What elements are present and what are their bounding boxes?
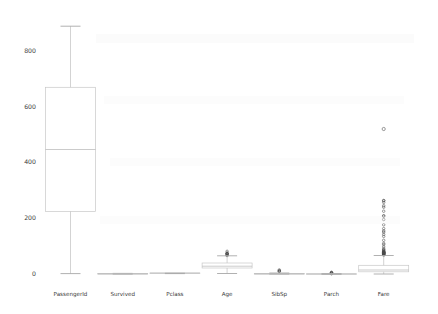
x-tick-sibsp: SibSp <box>271 291 287 298</box>
y-tick-600: 600 <box>24 103 36 110</box>
y-tick-200: 200 <box>24 214 36 221</box>
outlier-point <box>382 218 385 221</box>
box-iqr <box>359 265 409 272</box>
outlier-group <box>382 199 385 256</box>
box-pclass <box>150 273 200 274</box>
outlier-point <box>382 224 385 227</box>
y-tick-0: 0 <box>32 270 36 277</box>
boxplot-canvas: 800 600 400 200 0 <box>0 0 438 314</box>
x-tick-passengerid: PassengerId <box>54 291 88 298</box>
y-axis-tick-labels: 800 600 400 200 0 <box>24 47 36 277</box>
outlier-point-max <box>382 127 385 130</box>
box-fare <box>359 127 409 274</box>
y-tick-400: 400 <box>24 158 36 165</box>
x-tick-pclass: Pclass <box>166 291 183 297</box>
box-sibsp <box>254 269 304 274</box>
x-tick-age: Age <box>222 291 233 298</box>
box-age <box>202 250 252 273</box>
x-tick-survived: Survived <box>110 291 135 297</box>
x-axis-tick-labels: PassengerId Survived Pclass Age SibSp Pa… <box>54 291 391 298</box>
box-parch <box>307 271 357 275</box>
y-tick-800: 800 <box>24 47 36 54</box>
outlier-point <box>382 210 385 213</box>
outlier-point <box>382 239 385 242</box>
box-iqr <box>202 263 252 268</box>
box-survived <box>98 273 148 274</box>
x-tick-fare: Fare <box>378 291 390 297</box>
x-tick-parch: Parch <box>324 291 340 297</box>
box-passengerid <box>46 26 96 273</box>
outlier-group <box>278 269 281 273</box>
boxplot-figure: 800 600 400 200 0 <box>0 0 438 314</box>
